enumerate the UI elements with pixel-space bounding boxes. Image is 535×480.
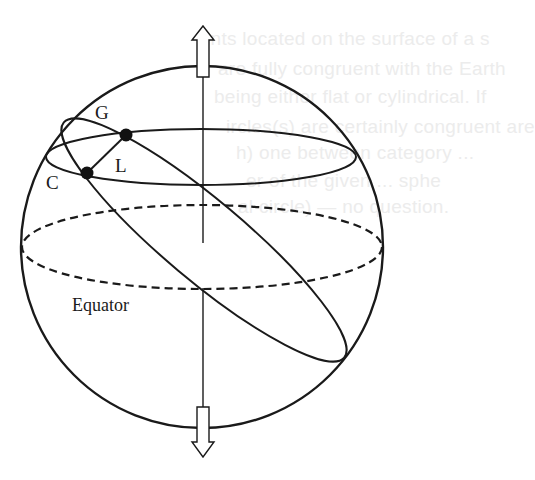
label-c: C xyxy=(46,172,59,193)
label-equator: Equator xyxy=(72,295,129,315)
label-l: L xyxy=(115,155,127,176)
north-arrow-icon xyxy=(192,26,214,77)
south-arrow-icon xyxy=(192,407,214,457)
point-c-dot xyxy=(81,167,94,180)
sphere-outline xyxy=(21,66,383,428)
label-g: G xyxy=(95,102,109,123)
latitude-circle xyxy=(46,129,356,185)
equator-circle xyxy=(22,205,382,289)
great-circle xyxy=(38,92,370,389)
point-g-dot xyxy=(120,129,133,142)
